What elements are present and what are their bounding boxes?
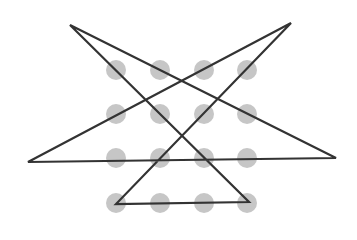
dot-grid-diagram xyxy=(0,0,357,240)
grid-dot-r3-c1 xyxy=(106,148,126,168)
connecting-line-path xyxy=(28,23,336,204)
grid-dot-r2-c1 xyxy=(106,104,126,124)
